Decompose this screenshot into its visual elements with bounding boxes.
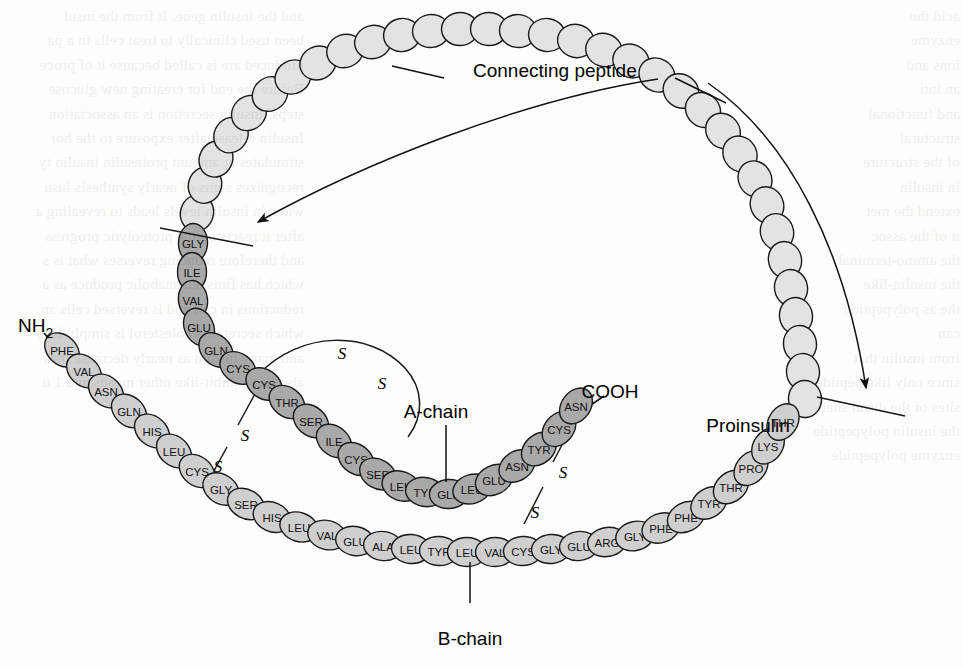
- left-cleavage-arrow: [258, 79, 658, 222]
- residue-label: GLU: [187, 322, 211, 334]
- proinsulin-diagram-canvas: PHEVALASNGLNHISLEUCYSGLYSERHISLEUVALGLUA…: [0, 0, 963, 668]
- cooh-label: COOH: [582, 381, 639, 402]
- cleavage-site-line-2: [817, 397, 905, 416]
- b-chain-label: B-chain: [438, 628, 502, 649]
- s-symbol-a6: S: [338, 344, 347, 363]
- residue-label: ILE: [183, 267, 201, 279]
- s-symbol-b7: S: [214, 457, 223, 476]
- residue-label: VAL: [317, 530, 338, 542]
- connecting-peptide-label: Connecting peptide: [473, 60, 637, 81]
- disulfide-bond-a7-b7-upper: [238, 392, 256, 425]
- proinsulin-label: Proinsulin: [706, 415, 789, 436]
- residue-label: HIS: [142, 426, 162, 438]
- residue-label: THR: [275, 397, 299, 409]
- a-chain: GLYILEVALGLUGLNCYSCYSTHRSERILECYSSERLEUT…: [176, 223, 599, 510]
- nh2-label-text: NH: [18, 315, 45, 336]
- residue-label: PHE: [50, 345, 74, 357]
- residue-label: ALA: [372, 541, 394, 553]
- residue-label: ASN: [94, 386, 118, 398]
- residue-label: ASN: [564, 401, 588, 413]
- residue-label: VAL: [485, 547, 506, 559]
- a-chain-label: A-chain: [404, 401, 468, 422]
- s-symbol-b19: S: [531, 503, 540, 522]
- residue-label: VAL: [74, 366, 95, 378]
- residue-label: LEU: [163, 446, 185, 458]
- residue-label: CYS: [185, 466, 209, 478]
- connecting-peptide-leader-left: [392, 66, 444, 78]
- s-symbol-a7: S: [241, 426, 250, 445]
- s-symbol-a11: S: [378, 374, 387, 393]
- nh2-label-subscript: 2: [45, 325, 53, 341]
- residue-label: LEU: [400, 544, 422, 556]
- residue-label: LEU: [288, 522, 310, 534]
- residue-label: CYS: [547, 424, 571, 436]
- residue-label: VAL: [183, 295, 204, 307]
- residue-label: GLY: [182, 238, 204, 250]
- residue-label: ILE: [325, 436, 343, 448]
- residue-label: HIS: [262, 512, 282, 524]
- proinsulin-figure: and the insulin gene. It from the insul …: [0, 0, 963, 668]
- residue-label: SER: [299, 416, 323, 428]
- nh2-label: NH2: [18, 315, 53, 341]
- residue-label: PRO: [739, 463, 764, 475]
- residue-label: CYS: [226, 363, 250, 375]
- b-chain: PHEVALASNGLNHISLEUCYSGLYSERHISLEUVALGLUA…: [38, 326, 806, 567]
- residue-label: LYS: [758, 441, 779, 453]
- residue-label: TYR: [528, 444, 551, 456]
- residue-label: GLN: [117, 406, 141, 418]
- s-symbol-a20: S: [559, 463, 568, 482]
